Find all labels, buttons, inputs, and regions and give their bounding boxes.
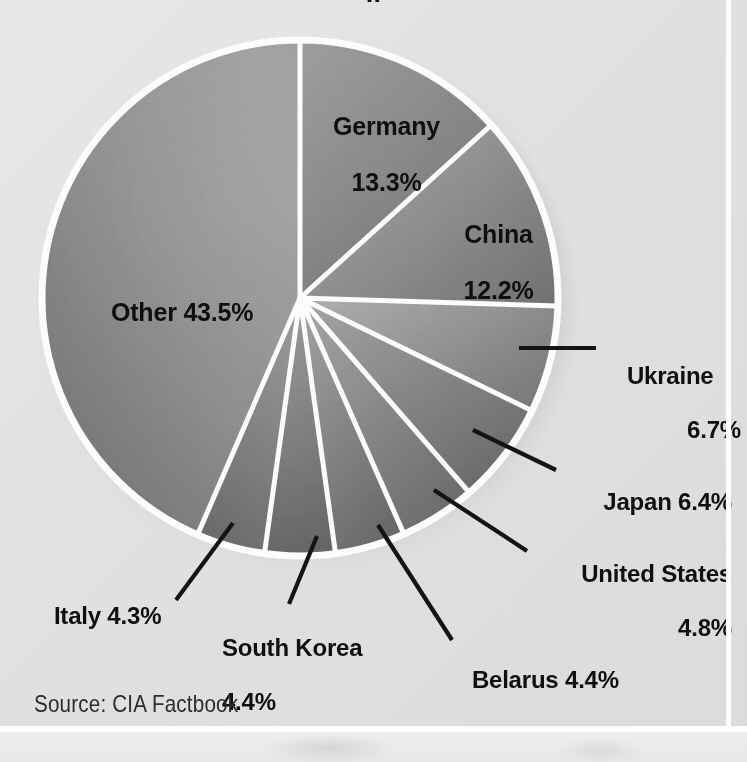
slice-label-belarus-text: Belarus 4.4% (472, 666, 619, 693)
slice-label-united-states-value: 4.8% (678, 614, 732, 641)
slice-label-ukraine-name: Ukraine (627, 362, 714, 389)
slice-label-germany-name: Germany (333, 112, 440, 140)
chart-canvas: .. (0, 0, 747, 762)
slice-label-china-name: China (464, 220, 532, 248)
slice-label-south-korea-name: South Korea (222, 634, 362, 661)
slice-label-united-states-name: United States (581, 560, 732, 587)
slice-label-japan-text: Japan 6.4% (603, 488, 732, 515)
source-note: Source: CIA Factbook (34, 690, 238, 718)
slice-label-belarus: Belarus 4.4% (446, 640, 676, 721)
slice-label-italy: Italy 4.3% (28, 576, 218, 657)
slice-label-south-korea: South Korea 4.4% (196, 608, 406, 742)
page-bleed-area (0, 732, 747, 762)
slice-label-other: Other 43.5% (84, 270, 304, 354)
page-title-text: .. (0, 0, 747, 8)
slice-label-china: China 12.2% (400, 192, 570, 332)
slice-label-japan: Japan 6.4% (548, 462, 732, 543)
slice-label-italy-text: Italy 4.3% (54, 602, 161, 629)
page-border-right (726, 0, 731, 726)
slice-label-ukraine-value: 6.7% (601, 417, 741, 444)
slice-label-china-value: 12.2% (464, 276, 534, 304)
slice-label-other-text: Other 43.5% (111, 298, 253, 326)
page-title-clipped: .. (0, 0, 747, 8)
